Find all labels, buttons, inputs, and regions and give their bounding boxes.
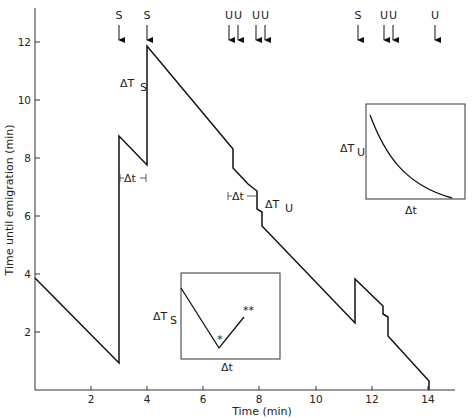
- y-tick-label: 2: [24, 326, 31, 338]
- x-tick-label: 14: [421, 393, 435, 405]
- marker-label: U: [252, 9, 260, 22]
- inset-delta-ts: * ** ΔT S Δt: [153, 273, 280, 374]
- x-tick-labels: 2 4 6 8 10 12 14: [88, 393, 435, 405]
- svg-text:U: U: [285, 202, 293, 215]
- inset-ylabel-sub: S: [170, 314, 177, 327]
- marker-label: U: [389, 9, 397, 22]
- marker-label: S: [116, 9, 123, 22]
- x-tick-label: 6: [200, 393, 207, 405]
- x-tick-label: 4: [144, 393, 151, 405]
- x-tick-label: 10: [309, 393, 322, 405]
- inset-star-1: *: [217, 333, 223, 346]
- y-tick-labels: 2 4 6 8 10 12: [18, 36, 32, 338]
- x-tick-label: 8: [256, 393, 263, 405]
- inset-ylabel-sub: U: [357, 146, 365, 159]
- inset-delta-tu: ΔT U Δt: [340, 104, 465, 217]
- marker-label: S: [355, 9, 362, 22]
- y-tick-label: 10: [18, 94, 31, 106]
- inset-xlabel: Δt: [405, 204, 418, 217]
- marker-label: U: [431, 9, 439, 22]
- delta-t-label: Δt: [232, 190, 245, 203]
- marker-label: U: [225, 9, 233, 22]
- svg-text:ΔT: ΔT: [265, 198, 280, 211]
- chart-figure: 2 4 6 8 10 12 2 4 6 8 10 12 14 Time (min…: [0, 0, 475, 419]
- x-ticks: [91, 386, 428, 390]
- marker-label: U: [261, 9, 269, 22]
- svg-text:ΔT: ΔT: [120, 77, 135, 90]
- event-marker-labels: S S U U U U S U U U: [116, 9, 440, 22]
- inset-xlabel: Δt: [221, 361, 234, 374]
- delta-t-label: Δt: [124, 172, 137, 185]
- svg-text:S: S: [140, 81, 147, 94]
- marker-label: U: [234, 9, 242, 22]
- y-tick-label: 12: [18, 36, 31, 48]
- inset-ylabel: ΔT: [153, 310, 168, 323]
- y-tick-label: 8: [24, 152, 31, 164]
- y-ticks: [35, 42, 40, 332]
- x-tick-label: 12: [365, 393, 378, 405]
- inset-ylabel: ΔT: [340, 142, 355, 155]
- y-tick-label: 6: [24, 210, 31, 222]
- inset-star-2: **: [243, 304, 255, 317]
- annotation-delta-tu: ΔT U: [265, 198, 293, 215]
- marker-label: S: [144, 9, 151, 22]
- y-tick-label: 4: [24, 268, 31, 280]
- annotation-delta-ts: ΔT S: [120, 77, 147, 94]
- event-markers: [119, 25, 435, 40]
- x-axis-title: Time (min): [231, 405, 292, 418]
- y-axis-title: Time until emigration (min): [3, 125, 16, 277]
- marker-label: U: [380, 9, 388, 22]
- x-tick-label: 2: [88, 393, 95, 405]
